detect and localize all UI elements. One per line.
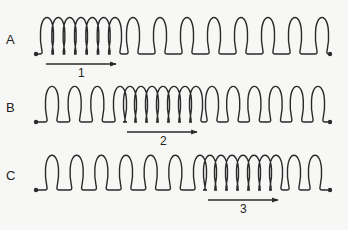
row-label-a: A [6,32,15,47]
arrow-label-2: 2 [160,134,167,148]
spring-coil [36,155,330,190]
row-label-c: C [6,168,15,183]
left-anchor-dot [34,52,38,56]
arrow-label-1: 1 [78,66,85,80]
row-label-b: B [6,100,15,115]
right-anchor-dot [328,188,332,192]
spring-row-a [34,18,332,65]
spring-row-b [34,86,332,132]
spring-coil [36,18,330,55]
right-anchor-dot [328,120,332,124]
right-anchor-dot [328,52,332,56]
spring-wave-diagram [0,0,348,230]
left-anchor-dot [34,120,38,124]
spring-row-c [34,155,332,200]
arrow-label-3: 3 [240,202,247,216]
spring-coil [36,86,330,122]
left-anchor-dot [34,188,38,192]
